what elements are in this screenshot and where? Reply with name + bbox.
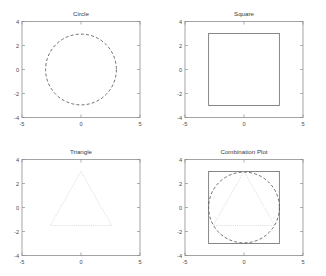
- ytick-label: -4: [14, 253, 19, 259]
- xtick-label: -5: [20, 259, 25, 265]
- axis-box: [185, 22, 303, 118]
- xtick-label: 0: [242, 259, 245, 265]
- ytick-label: 2: [179, 43, 182, 49]
- subplot-triangle: Triangle 4: [0, 138, 163, 276]
- data-series-triangle: [50, 172, 111, 226]
- ytick-labels-square: 4 2 0 -2 -4: [177, 19, 182, 121]
- xtick-label: 5: [301, 121, 304, 127]
- xtick-label: 5: [301, 259, 304, 265]
- ytick-label: 2: [179, 181, 182, 187]
- subplot-combination: Combination Plot: [163, 138, 326, 276]
- subplot-title-circle: Circle: [73, 10, 89, 17]
- ytick-label: -4: [14, 115, 19, 121]
- ytick-label: 0: [179, 205, 182, 211]
- axes-square: [185, 22, 303, 118]
- ytick-label: 0: [16, 67, 19, 73]
- ytick-label: -4: [177, 253, 182, 259]
- ytick-label: -4: [177, 115, 182, 121]
- xtick-labels-triangle: -5 0 5: [20, 259, 142, 265]
- xtick-label: 0: [79, 121, 82, 127]
- ytick-labels-triangle: 4 2 0 -2 -4: [14, 157, 19, 259]
- subplot-title-triangle: Triangle: [70, 148, 93, 155]
- xtick-label: 5: [138, 259, 141, 265]
- ytick-labels-circle: 4 2 0 -2 -4: [14, 19, 19, 121]
- ytick-label: -2: [177, 229, 182, 235]
- ytick-labels-combination: 4 2 0 -2 -4: [177, 157, 182, 259]
- ytick-label: -2: [14, 91, 19, 97]
- ytick-label: 0: [16, 205, 19, 211]
- xtick-label: 0: [79, 259, 82, 265]
- ytick-label: 4: [16, 19, 19, 25]
- xtick-label: -5: [183, 121, 188, 127]
- xtick-label: -5: [20, 121, 25, 127]
- data-series-circle: [209, 172, 280, 243]
- subplot-circle: Circle: [0, 0, 163, 138]
- xtick-label: 0: [242, 121, 245, 127]
- data-series-circle: [46, 34, 117, 105]
- axis-box: [22, 22, 140, 118]
- figure-canvas: Circle: [0, 0, 326, 276]
- axes-triangle: [22, 160, 140, 256]
- ytick-label: 2: [16, 43, 19, 49]
- xtick-label: -5: [183, 259, 188, 265]
- axis-box: [22, 160, 140, 256]
- axes-combination: [185, 160, 303, 256]
- ytick-label: 0: [179, 67, 182, 73]
- ytick-label: 4: [179, 19, 182, 25]
- ytick-label: 4: [16, 157, 19, 163]
- subplot-title-combination: Combination Plot: [220, 148, 267, 155]
- axes-circle: [22, 22, 140, 118]
- ytick-label: 4: [179, 157, 182, 163]
- data-series-square: [209, 34, 280, 106]
- ytick-label: 2: [16, 181, 19, 187]
- xtick-labels-combination: -5 0 5: [183, 259, 305, 265]
- xtick-labels-square: -5 0 5: [183, 121, 305, 127]
- ytick-label: -2: [14, 229, 19, 235]
- xtick-label: 5: [138, 121, 141, 127]
- xtick-labels-circle: -5 0 5: [20, 121, 142, 127]
- ytick-label: -2: [177, 91, 182, 97]
- axis-box: [185, 160, 303, 256]
- subplot-square: Square 4: [163, 0, 326, 138]
- subplot-title-square: Square: [234, 10, 255, 17]
